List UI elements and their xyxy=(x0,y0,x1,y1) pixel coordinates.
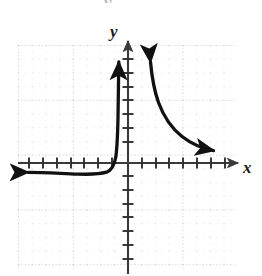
cropped-label-artifact: y xyxy=(104,0,122,3)
graph-figure: y xyxy=(0,0,262,276)
coordinate-graph xyxy=(0,0,262,276)
x-axis-label: x xyxy=(243,159,252,176)
y-axis-label: y xyxy=(110,23,118,40)
